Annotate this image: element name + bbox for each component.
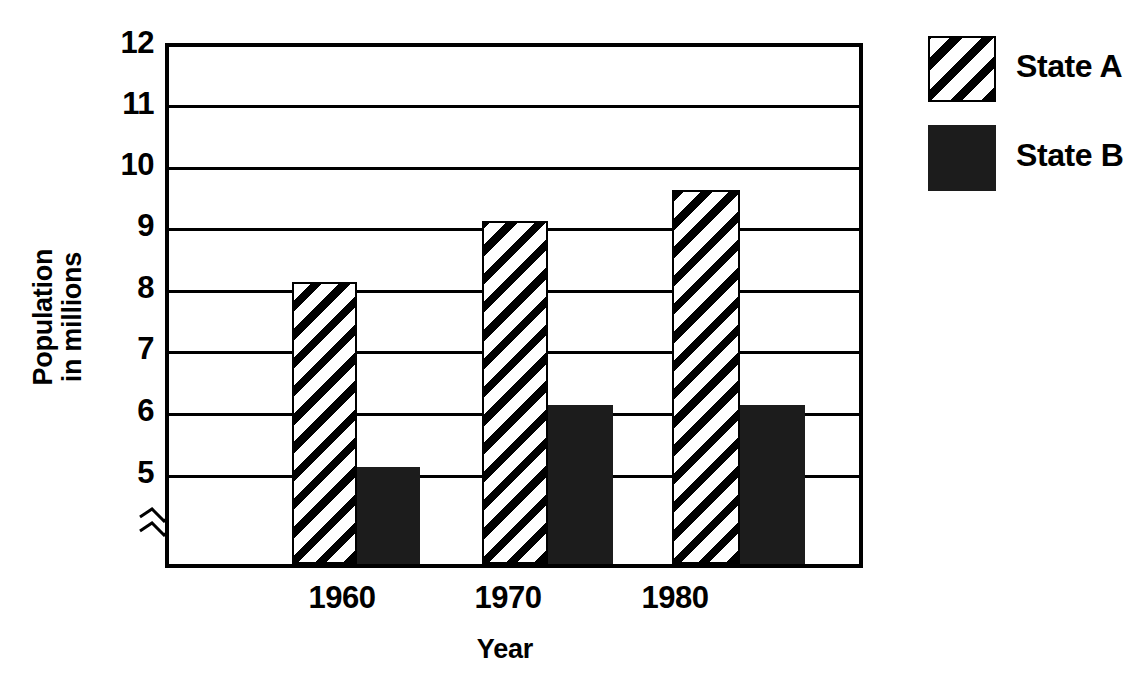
y-axis-title-line-2: in millions <box>58 197 87 437</box>
legend-item-state-b[interactable]: State B <box>928 125 1140 193</box>
y-axis-title: Population in millions <box>29 197 87 437</box>
gridline-11 <box>169 105 859 108</box>
legend-label-state-a: State A <box>1016 48 1122 85</box>
bar-state-b-1960[interactable] <box>357 467 420 564</box>
y-tick-label-7: 7 <box>98 333 154 364</box>
x-tick-label-1980: 1980 <box>595 580 755 616</box>
y-tick-label-11: 11 <box>98 88 154 119</box>
legend-label-state-b: State B <box>1016 137 1123 174</box>
y-axis-title-line-1: Population <box>29 197 58 437</box>
y-axis-tick-labels: 12 11 10 9 8 7 6 5 <box>92 0 154 685</box>
bar-state-a-1960[interactable] <box>292 282 357 564</box>
bar-chart: Population in millions 12 11 10 9 8 7 6 … <box>0 0 1140 685</box>
y-tick-label-5: 5 <box>98 457 154 488</box>
bar-state-b-1980[interactable] <box>740 405 805 564</box>
legend: State A State B <box>928 36 1140 214</box>
bar-state-a-1970[interactable] <box>482 221 548 564</box>
y-tick-label-8: 8 <box>98 272 154 303</box>
y-tick-label-10: 10 <box>98 149 154 180</box>
y-tick-label-6: 6 <box>98 395 154 426</box>
legend-swatch-hatched-icon <box>928 36 996 102</box>
plot-area <box>165 43 863 568</box>
y-tick-label-12: 12 <box>98 27 154 58</box>
x-axis-title: Year <box>425 634 585 665</box>
y-tick-label-9: 9 <box>98 210 154 241</box>
bar-state-a-1980[interactable] <box>672 190 740 564</box>
gridline-10 <box>169 167 859 170</box>
legend-swatch-solid-icon <box>928 125 996 191</box>
bar-state-b-1970[interactable] <box>548 405 613 564</box>
legend-item-state-a[interactable]: State A <box>928 36 1140 104</box>
x-tick-label-1970: 1970 <box>428 580 588 616</box>
x-tick-label-1960: 1960 <box>262 580 422 616</box>
